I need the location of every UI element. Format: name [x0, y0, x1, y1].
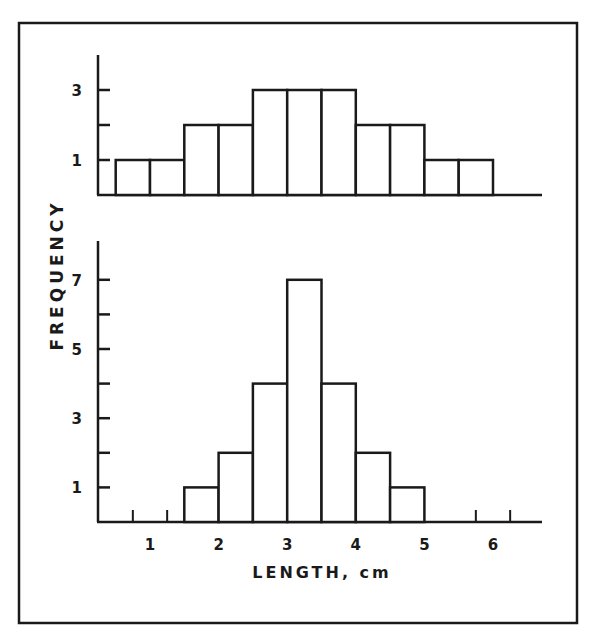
y-tick-label: 7 [72, 272, 82, 290]
x-tick-label: 1 [145, 536, 155, 554]
histogram-bar [219, 125, 253, 195]
histogram-bar [287, 90, 321, 195]
histogram-bar [390, 125, 424, 195]
x-axis-label: LENGTH, cm [252, 563, 391, 582]
histogram-bar [253, 90, 287, 195]
histogram-bar [390, 487, 424, 522]
x-tick-label: 4 [351, 536, 361, 554]
x-tick-label: 5 [419, 536, 429, 554]
x-tick-label: 2 [213, 536, 223, 554]
histogram-bar [150, 160, 184, 195]
histogram-bar [184, 125, 218, 195]
histogram-bar [253, 384, 287, 522]
histogram-bar [287, 280, 321, 522]
histogram-bar [459, 160, 493, 195]
histogram-bar [356, 453, 390, 522]
histogram-bar [322, 384, 356, 522]
histogram-bar [356, 125, 390, 195]
y-tick-label: 1 [72, 152, 82, 170]
histogram-bar [184, 487, 218, 522]
y-tick-label: 3 [72, 410, 82, 428]
x-tick-label: 6 [488, 536, 498, 554]
histogram-bar [116, 160, 150, 195]
histogram-figure: 13 1357123456 FREQUENCY LENGTH, cm [0, 0, 591, 630]
bottom-histogram: 1357123456 [72, 241, 542, 554]
x-tick-label: 3 [282, 536, 292, 554]
histogram-bar [424, 160, 458, 195]
top-histogram: 13 [72, 55, 542, 195]
histogram-bar [219, 453, 253, 522]
y-tick-label: 5 [72, 341, 82, 359]
histogram-bar [322, 90, 356, 195]
y-axis-label: FREQUENCY [47, 199, 67, 350]
y-tick-label: 3 [72, 82, 82, 100]
y-tick-label: 1 [72, 479, 82, 497]
